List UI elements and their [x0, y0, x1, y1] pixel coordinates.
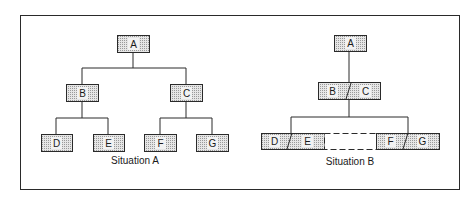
node-b-DE: D E: [262, 133, 325, 150]
node-label: B: [329, 86, 336, 97]
node-label: A: [130, 39, 137, 50]
node-a-C: C: [171, 85, 203, 102]
outer-frame: [21, 16, 460, 190]
node-b-BC: B C: [319, 83, 381, 100]
node-a-D: D: [42, 135, 73, 152]
node-b-A: A: [335, 36, 367, 52]
node-a-B: B: [67, 85, 99, 102]
node-label: D: [53, 138, 60, 149]
node-b-FG: F G: [377, 133, 440, 150]
node-a-F: F: [145, 135, 177, 152]
node-label: D: [271, 136, 278, 147]
node-label: G: [419, 136, 427, 147]
node-label: F: [157, 138, 163, 149]
caption-situation-a: Situation A: [111, 155, 159, 166]
node-label: F: [387, 136, 393, 147]
node-label: E: [105, 138, 112, 149]
node-label: A: [347, 38, 354, 49]
node-label: C: [362, 86, 369, 97]
node-a-A: A: [118, 36, 150, 53]
node-label: C: [183, 88, 190, 99]
diagram-canvas: A B C D E F G Situation A: [0, 0, 476, 199]
node-a-E: E: [94, 135, 125, 152]
node-label: B: [79, 88, 86, 99]
node-a-G: G: [197, 135, 229, 152]
caption-situation-b: Situation B: [326, 156, 375, 167]
node-label: E: [304, 136, 311, 147]
node-label: G: [209, 138, 217, 149]
node-b-gap: [325, 134, 377, 150]
